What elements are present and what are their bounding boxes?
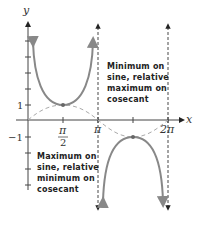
x-tick-label-2pi: 2π [159, 123, 175, 136]
csc-sine-graph: y x 1 −1 π 2 π 2π [0, 0, 202, 225]
x-tick-label-pi: π [93, 123, 102, 136]
y-tick-label-1: 1 [17, 100, 23, 111]
csc-upper-branch [33, 42, 93, 105]
x-tick-label-pi-over-2-num: π [58, 124, 67, 137]
csc-lower-branch [103, 137, 163, 202]
annotation-upper-right: Minimum on sine, relative maximum on cos… [107, 61, 169, 105]
sine-min-point [131, 135, 135, 139]
y-axis-label: y [22, 4, 30, 17]
sine-max-point [61, 103, 65, 107]
x-tick-label-pi-over-2-den: 2 [60, 137, 66, 148]
y-tick-label-neg1: −1 [8, 132, 23, 143]
x-axis-label: x [186, 113, 193, 126]
annotation-lower-left: Maximum on sine, relative minimum on cos… [37, 151, 99, 195]
